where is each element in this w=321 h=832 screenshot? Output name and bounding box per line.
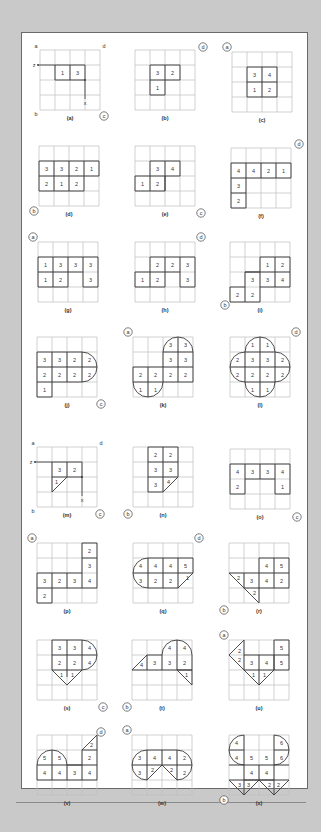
panel-caption: (a) — [67, 115, 74, 121]
cell-number: 3 — [58, 645, 61, 651]
arrow-dot — [34, 461, 36, 463]
corner-circle-label: d — [199, 234, 202, 240]
cell-number: 3 — [45, 166, 48, 172]
piece-outline — [247, 67, 277, 97]
panel-c: 3412a(c) — [223, 43, 292, 123]
corner-circle-label: c — [296, 514, 299, 520]
cell-number: 3 — [169, 467, 172, 473]
cell-number: 3 — [247, 782, 250, 788]
cell-number: 4 — [88, 770, 91, 776]
panel-caption: (i) — [257, 307, 262, 313]
cell-number: 1 — [60, 672, 63, 678]
cell-number: 1 — [251, 387, 254, 393]
cell-number: 2 — [58, 372, 61, 378]
cell-number: 3 — [184, 357, 187, 363]
panel-caption: (p) — [63, 608, 70, 614]
corner-circle-label: d — [201, 44, 204, 50]
cell-number: 3 — [238, 782, 241, 788]
panel-caption: (g) — [64, 307, 71, 313]
panel-caption: (u) — [255, 705, 262, 711]
cell-number: 1 — [154, 387, 157, 393]
cell-number: 2 — [253, 590, 256, 596]
cell-number: 1 — [61, 70, 64, 76]
panel-caption: (v) — [64, 800, 71, 806]
cell-number: 1 — [60, 181, 63, 187]
cell-number: 2 — [43, 372, 46, 378]
cell-number: 3 — [89, 277, 92, 283]
cell-number: 4 — [235, 740, 238, 746]
cell-number: 3 — [58, 467, 61, 473]
cell-number: 1 — [266, 342, 269, 348]
cell-number: 2 — [184, 372, 187, 378]
cell-number: 2 — [268, 87, 271, 93]
panel-caption: (h) — [161, 307, 168, 313]
cell-number: 3 — [138, 770, 141, 776]
cell-number: 5 — [58, 755, 61, 761]
cell-number: 1 — [251, 342, 254, 348]
cell-number: 6 — [280, 755, 283, 761]
cell-number: 2 — [88, 755, 91, 761]
panel-k: 3333222211a(k) — [124, 328, 193, 408]
cell-number: 2 — [281, 262, 284, 268]
cell-number: 2 — [156, 181, 159, 187]
cell-number: 3 — [156, 166, 159, 172]
panel-caption: (x) — [256, 800, 263, 806]
cell-number: 4 — [153, 755, 156, 761]
cell-number: 2 — [58, 578, 61, 584]
corner-circle-label: b — [126, 511, 129, 517]
cell-number: 3 — [169, 357, 172, 363]
cell-number: 2 — [170, 767, 173, 773]
corner-circle-label: c — [99, 511, 102, 517]
cell-number: 3 — [184, 342, 187, 348]
corner-circle-label: d — [99, 729, 102, 735]
arrow-dot — [84, 79, 86, 81]
corner-label: z — [30, 459, 33, 465]
cell-number: 2 — [169, 372, 172, 378]
cell-number: 2 — [88, 357, 91, 363]
cell-number: 5 — [280, 563, 283, 569]
cell-number: 3 — [250, 660, 253, 666]
cell-number: 2 — [73, 660, 76, 666]
panel-l: 112332222211d(l) — [230, 328, 300, 408]
cell-number: 3 — [154, 482, 157, 488]
cell-number: 1 — [252, 672, 255, 678]
cell-number: 2 — [251, 372, 254, 378]
arrow-dot — [37, 64, 39, 66]
cell-number: 1 — [266, 387, 269, 393]
cell-number: 2 — [281, 372, 284, 378]
cell-number: 2 — [156, 262, 159, 268]
corner-circle-label: b — [125, 704, 128, 710]
corner-circle-label: b — [222, 607, 225, 613]
panel-v: 25524434d(v) — [37, 728, 105, 806]
cell-number: 3 — [76, 70, 79, 76]
panel-d: 3321212b(d) — [30, 146, 99, 217]
piece-outline — [148, 447, 178, 492]
corner-label: a — [31, 440, 35, 446]
cell-number: 3 — [250, 578, 253, 584]
cell-number: 2 — [281, 357, 284, 363]
panel-caption: (e) — [162, 211, 169, 217]
cell-number: 4 — [281, 277, 284, 283]
cell-number: 3 — [43, 357, 46, 363]
cell-number: 4 — [237, 168, 240, 174]
cell-number: 4 — [168, 645, 171, 651]
cell-number: 2 — [169, 578, 172, 584]
cell-number: 3 — [186, 277, 189, 283]
cell-number: 4 — [236, 469, 239, 475]
panel-caption: (s) — [64, 705, 71, 711]
cell-number: 2 — [171, 70, 174, 76]
panel-h: 223123d(h) — [135, 233, 205, 313]
cell-number: 5 — [43, 755, 46, 761]
cell-number: 4 — [265, 563, 268, 569]
cell-number: 4 — [183, 645, 186, 651]
cell-number: 2 — [73, 467, 76, 473]
cell-number: 4 — [167, 479, 170, 485]
cell-number: 3 — [43, 578, 46, 584]
cell-number: 1 — [44, 277, 47, 283]
panel-p: 2332342a(p) — [28, 534, 97, 614]
cell-number: 5 — [250, 755, 253, 761]
cell-number: 2 — [280, 578, 283, 584]
cell-number: 4 — [250, 770, 253, 776]
panel-n: 223334b(n) — [124, 447, 193, 518]
corner-label: d — [102, 43, 105, 49]
